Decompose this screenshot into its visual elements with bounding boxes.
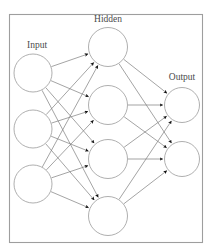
neuron-node-o2: [165, 142, 200, 177]
connection-edge: [52, 166, 89, 178]
figure-root: InputHiddenOutput: [0, 0, 211, 251]
neuron-node-h3: [89, 140, 128, 179]
neuron-node-h4: [89, 197, 128, 236]
connection-edge: [124, 171, 167, 204]
neuron-node-o1: [165, 88, 200, 123]
connection-edge: [51, 54, 88, 67]
layer-label-hidden: Hidden: [94, 14, 122, 24]
connection-edge: [51, 136, 88, 151]
edges-group: [42, 54, 171, 208]
connection-edge: [124, 116, 166, 147]
connection-edge: [46, 120, 93, 170]
neuron-node-i2: [14, 110, 52, 148]
neural-network-diagram: InputHiddenOutput: [0, 0, 211, 251]
layer-label-input: Input: [27, 40, 47, 50]
connection-edge: [46, 63, 94, 115]
neuron-node-h1: [89, 28, 128, 67]
connection-edge: [51, 192, 89, 208]
layer-label-output: Output: [169, 72, 196, 82]
neuron-node-h2: [89, 86, 128, 125]
connection-edge: [124, 117, 166, 148]
neuron-node-i1: [14, 54, 52, 92]
neuron-node-i3: [14, 165, 52, 203]
connection-edge: [124, 59, 167, 93]
nodes-group: [14, 28, 200, 236]
